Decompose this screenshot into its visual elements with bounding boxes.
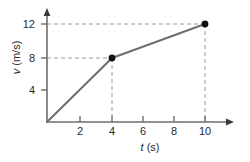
x-tick-label-10: 10 [195, 126, 215, 137]
x-axis-unit: (s) [144, 141, 160, 153]
y-axis-unit: (m/s) [10, 41, 22, 69]
x-axis-arrow-icon [226, 119, 234, 126]
velocity-time-chart: 12 8 4 2 4 6 8 10 v (m/s) t (s) [0, 0, 250, 162]
plot-area [0, 0, 250, 162]
data-point-marker [202, 21, 209, 28]
y-axis-arrow-icon [44, 8, 51, 16]
x-axis-title: t (s) [95, 142, 205, 153]
x-tick-label-4: 4 [102, 126, 122, 137]
y-axis-variable: v [10, 69, 22, 75]
y-axis-title: v (m/s) [11, 28, 22, 88]
x-tick-label-6: 6 [133, 126, 153, 137]
x-tick-label-8: 8 [164, 126, 184, 137]
x-tick-label-2: 2 [70, 126, 90, 137]
data-point-marker [109, 55, 116, 62]
data-series-line [47, 24, 205, 122]
